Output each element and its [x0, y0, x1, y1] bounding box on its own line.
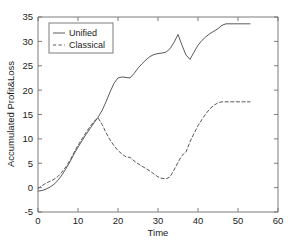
x-tick-label-20: 20 — [113, 215, 124, 226]
x-tick-label-10: 10 — [73, 215, 84, 226]
legend-label-unified: Unified — [69, 28, 97, 38]
y-tick-label--5: -5 — [25, 206, 33, 217]
x-axis-label: Time — [148, 227, 169, 238]
y-tick-label-20: 20 — [22, 85, 33, 96]
y-tick-label-35: 35 — [22, 11, 33, 22]
y-tick-label-30: 30 — [22, 36, 33, 47]
x-tick-label-30: 30 — [153, 215, 164, 226]
y-tick-label-5: 5 — [28, 158, 33, 169]
y-tick-label-0: 0 — [28, 182, 33, 193]
y-tick-label-10: 10 — [22, 133, 33, 144]
figure-background — [0, 0, 301, 250]
x-tick-label-40: 40 — [193, 215, 204, 226]
y-axis-label: Accumulated Profit&Loss — [5, 61, 16, 167]
chart-legend: Unified Classical — [49, 23, 113, 53]
chart-figure: 0102030405060 -505101520253035 Time Accu… — [0, 0, 301, 250]
legend-label-classical: Classical — [69, 40, 105, 50]
x-tick-label-60: 60 — [273, 215, 284, 226]
y-tick-label-15: 15 — [22, 109, 33, 120]
line-chart: 0102030405060 -505101520253035 Time Accu… — [0, 0, 301, 250]
x-tick-label-50: 50 — [233, 215, 244, 226]
x-tick-label-0: 0 — [35, 215, 40, 226]
y-tick-label-25: 25 — [22, 60, 33, 71]
